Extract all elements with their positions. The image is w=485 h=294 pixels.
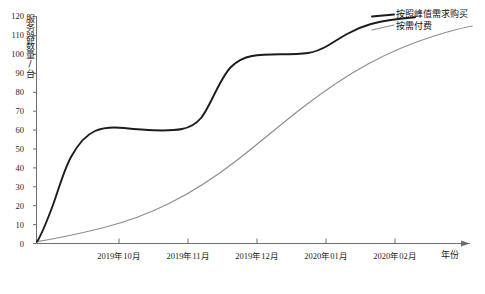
x-tick-label-2: 2019年12月: [235, 249, 279, 261]
y-tick-label-10: 10: [0, 220, 24, 230]
x-axis-arrow-icon: [461, 240, 470, 246]
y-tick-label-90: 90: [0, 68, 24, 78]
y-tick-label-40: 40: [0, 163, 24, 173]
y-tick-label-120: 120: [0, 11, 24, 21]
x-axis-title: 年份: [441, 248, 459, 261]
y-tick-label-110: 110: [0, 30, 24, 40]
legend-item-peak-purchase: 按照峰值需求购买: [396, 9, 468, 20]
y-tick-label-30: 30: [0, 182, 24, 192]
y-tick-label-20: 20: [0, 201, 24, 211]
y-tick-label-70: 70: [0, 106, 24, 116]
legend-swatch-ondemand: [372, 25, 394, 30]
legend-item-on-demand: 按需付费: [396, 21, 432, 32]
y-tick-label-80: 80: [0, 87, 24, 97]
x-tick-label-0: 2019年10月: [97, 249, 141, 261]
y-tick-label-50: 50: [0, 144, 24, 154]
legend-swatch-peak: [372, 15, 394, 17]
x-tick-label-4: 2020年02月: [373, 249, 417, 261]
x-tick-label-3: 2020年01月: [304, 249, 348, 261]
y-tick-label-100: 100: [0, 49, 24, 59]
series-line-ondemand: [37, 26, 472, 242]
x-tick-label-1: 2019年11月: [166, 249, 209, 261]
y-tick-label-0: 0: [0, 239, 24, 249]
y-axis-title: 服务器数量/台: [22, 14, 35, 78]
x-axis-ticks: [119, 239, 395, 244]
y-tick-label-60: 60: [0, 125, 24, 135]
series-line-peak: [37, 17, 415, 242]
caption-bar: 图3-5: [0, 269, 485, 294]
figure-container: 120 110 100 90 80 70 60 50 40 30 20 10 0…: [0, 0, 485, 294]
